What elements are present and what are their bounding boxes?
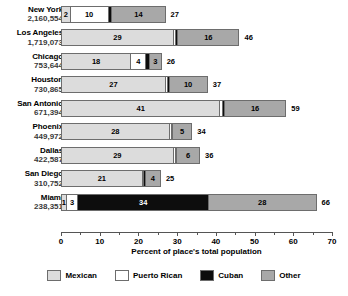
row-label: New York2,160,554	[0, 5, 63, 24]
chart-row: Chicago753,644184326	[0, 51, 348, 75]
bar-segment-mexican: 21	[62, 171, 142, 186]
row-total-label: 66	[317, 194, 330, 211]
chart-row: San Antonio671,394411659	[0, 98, 348, 122]
axis-tick-label: 60	[289, 237, 298, 246]
stacked-bar: 2916	[61, 29, 239, 46]
segment-value-label: 16	[204, 33, 212, 42]
stacked-bar: 21014	[61, 6, 166, 23]
plot-area: New York2,160,5542101427Los Angeles1,719…	[0, 0, 348, 232]
bar-segment-other: 16	[177, 30, 238, 45]
axis-tick	[255, 232, 256, 236]
bar-segment-puertorican: 4	[130, 54, 145, 69]
axis-tick	[177, 232, 178, 236]
city-name: New York	[0, 5, 63, 15]
bar-segment-cuban: 34	[77, 195, 208, 210]
row-total-label: 59	[286, 100, 299, 117]
row-label: San Diego310,752	[0, 169, 63, 188]
axis-tick-label: 50	[250, 237, 259, 246]
city-population: 753,644	[0, 61, 63, 71]
axis-tick-label: 10	[95, 237, 104, 246]
stacked-bar: 214	[61, 170, 161, 187]
row-total-label: 25	[161, 170, 174, 187]
axis-tick-label: 20	[134, 237, 143, 246]
bar-segment-other: 14	[111, 7, 164, 22]
bar-segment-other: 6	[176, 148, 199, 163]
legend-swatch-other	[261, 270, 275, 281]
stacked-bar-chart: New York2,160,5542101427Los Angeles1,719…	[0, 0, 348, 296]
bar-segment-mexican: 28	[62, 124, 169, 139]
segment-value-label: 18	[92, 57, 100, 66]
axis-tick-label: 0	[59, 237, 63, 246]
segment-value-label: 34	[139, 198, 147, 207]
chart-row: New York2,160,5542101427	[0, 4, 348, 28]
segment-value-label: 29	[113, 33, 121, 42]
row-label: Los Angeles1,719,073	[0, 28, 63, 47]
legend-swatch-cuban	[200, 270, 214, 281]
axis-tick	[332, 232, 333, 236]
axis-tick	[216, 232, 217, 236]
city-population: 671,394	[0, 108, 63, 118]
axis-tick	[100, 232, 101, 236]
row-total-label: 37	[208, 76, 221, 93]
stacked-bar: 2710	[61, 76, 208, 93]
legend-label: Puerto Rican	[133, 271, 182, 280]
segment-value-label: 10	[184, 80, 192, 89]
axis-tick-label: 70	[328, 237, 337, 246]
bar-segment-mexican: 18	[62, 54, 130, 69]
bar-segment-other: 10	[169, 77, 207, 92]
bar-segment-mexican: 2	[62, 7, 70, 22]
city-name: Chicago	[0, 52, 63, 62]
bar-segment-mexican: 29	[62, 148, 173, 163]
row-label: Dallas422,587	[0, 146, 63, 165]
segment-value-label: 2	[64, 10, 68, 19]
chart-row: Los Angeles1,719,073291646	[0, 27, 348, 51]
city-population: 1,719,073	[0, 38, 63, 48]
chart-row: San Diego310,75221425	[0, 168, 348, 192]
stacked-bar: 285	[61, 123, 192, 140]
chart-row: Dallas422,58729636	[0, 145, 348, 169]
segment-value-label: 28	[258, 198, 266, 207]
legend-label: Other	[279, 271, 300, 280]
axis-tick-minor	[119, 232, 120, 235]
axis-tick-minor	[274, 232, 275, 235]
city-population: 449,972	[0, 132, 63, 142]
bar-segment-mexican: 27	[62, 77, 165, 92]
bar-segment-other: 28	[208, 195, 316, 210]
axis-tick-minor	[158, 232, 159, 235]
axis-tick	[138, 232, 139, 236]
axis-tick-label: 40	[211, 237, 220, 246]
row-total-label: 26	[162, 53, 175, 70]
city-name: Houston	[0, 75, 63, 85]
row-total-label: 36	[200, 147, 213, 164]
city-name: Miami	[0, 193, 63, 203]
chart-row: Houston730,865271037	[0, 74, 348, 98]
segment-value-label: 3	[153, 57, 157, 66]
city-name: Los Angeles	[0, 28, 63, 38]
chart-legend: MexicanPuerto RicanCubanOther	[0, 270, 348, 281]
stacked-bar: 1843	[61, 53, 162, 70]
city-name: Dallas	[0, 146, 63, 156]
bar-segment-mexican: 41	[62, 101, 219, 116]
segment-value-label: 29	[113, 151, 121, 160]
city-population: 2,160,554	[0, 14, 63, 24]
segment-value-label: 10	[85, 10, 93, 19]
bar-segment-other: 16	[224, 101, 285, 116]
bar-segment-other: 5	[172, 124, 191, 139]
segment-value-label: 41	[136, 104, 144, 113]
bar-segment-puertorican: 10	[70, 7, 108, 22]
legend-swatch-mexican	[47, 270, 61, 281]
row-total-label: 27	[166, 6, 179, 23]
row-total-label: 46	[239, 29, 252, 46]
segment-value-label: 21	[98, 174, 106, 183]
segment-value-label: 28	[111, 127, 119, 136]
segment-value-label: 4	[136, 57, 140, 66]
bar-segment-puertorican: 3	[66, 195, 78, 210]
axis-tick	[293, 232, 294, 236]
legend-label: Cuban	[218, 271, 243, 280]
segment-value-label: 6	[186, 151, 190, 160]
city-name: San Diego	[0, 169, 63, 179]
bar-segment-other: 4	[145, 171, 160, 186]
row-total-label: 34	[192, 123, 205, 140]
chart-row: Miami238,35113342866	[0, 192, 348, 216]
segment-value-label: 4	[151, 174, 155, 183]
